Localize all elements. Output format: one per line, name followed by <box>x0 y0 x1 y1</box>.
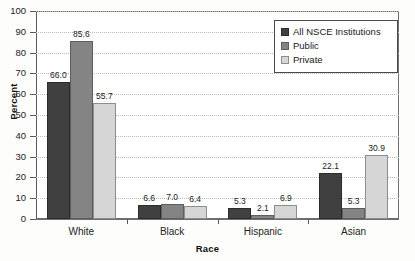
legend-item-label: Public <box>293 40 319 51</box>
y-axis-tick <box>30 32 36 33</box>
y-axis-tick <box>30 177 36 178</box>
y-axis-tick <box>30 157 36 158</box>
y-axis-tick <box>30 219 36 220</box>
y-axis-title: Percent <box>8 72 19 132</box>
bar-value-label: 6.9 <box>270 194 301 203</box>
y-axis-tick-label: 20 <box>15 172 26 182</box>
y-axis-tick-label: 50 <box>15 110 26 120</box>
x-axis-tick <box>127 219 128 224</box>
y-axis-tick <box>30 136 36 137</box>
y-axis-tick <box>30 11 36 12</box>
legend-item: All NSCE Institutions <box>281 25 392 38</box>
bar-value-label: 55.7 <box>89 92 120 101</box>
y-axis-tick-label: 30 <box>15 152 26 162</box>
y-axis-tick-label: 80 <box>15 48 26 58</box>
bar <box>70 41 93 219</box>
x-axis-tick-label: White <box>36 226 127 237</box>
bar <box>93 103 116 219</box>
bar <box>251 215 274 219</box>
chart-legend: All NSCE InstitutionsPublicPrivate <box>274 20 398 73</box>
legend-swatch-icon <box>281 42 289 50</box>
y-axis-tick-label: 40 <box>15 131 26 141</box>
y-axis-tick <box>30 115 36 116</box>
x-axis-tick <box>218 219 219 224</box>
x-axis-tick <box>308 219 309 224</box>
y-axis-tick-label: 70 <box>15 68 26 78</box>
bar-value-label: 85.6 <box>66 30 97 39</box>
bar <box>342 208 365 219</box>
legend-swatch-icon <box>281 56 289 64</box>
x-axis-tick-label: Asian <box>308 226 399 237</box>
bar-value-label: 22.1 <box>315 162 346 171</box>
bar <box>47 82 70 219</box>
x-axis-tick-label: Hispanic <box>218 226 309 237</box>
bar <box>161 204 184 219</box>
y-axis-tick <box>30 73 36 74</box>
legend-item-label: All NSCE Institutions <box>293 26 381 37</box>
legend-swatch-icon <box>281 28 289 36</box>
x-axis-title: Race <box>0 243 415 254</box>
y-axis-tick-label: 0 <box>21 214 26 224</box>
y-axis-tick <box>30 94 36 95</box>
gridline <box>36 11 399 12</box>
bar-value-label: 30.9 <box>361 144 392 153</box>
y-axis-tick-label: 100 <box>10 6 26 16</box>
bar <box>365 155 388 219</box>
legend-item-label: Private <box>293 54 323 65</box>
x-axis-tick-label: Black <box>127 226 218 237</box>
y-axis-tick <box>30 53 36 54</box>
bar <box>138 205 161 219</box>
y-axis-tick-label: 60 <box>15 89 26 99</box>
bar <box>184 206 207 219</box>
legend-item: Private <box>281 53 392 66</box>
y-axis-tick <box>30 198 36 199</box>
bar <box>274 205 297 219</box>
bar-value-label: 6.4 <box>180 195 211 204</box>
legend-item: Public <box>281 39 392 52</box>
y-axis-tick-label: 10 <box>15 193 26 203</box>
y-axis-tick-label: 90 <box>15 27 26 37</box>
chart-figure: Percent 0102030405060708090100 66.085.65… <box>0 0 415 261</box>
